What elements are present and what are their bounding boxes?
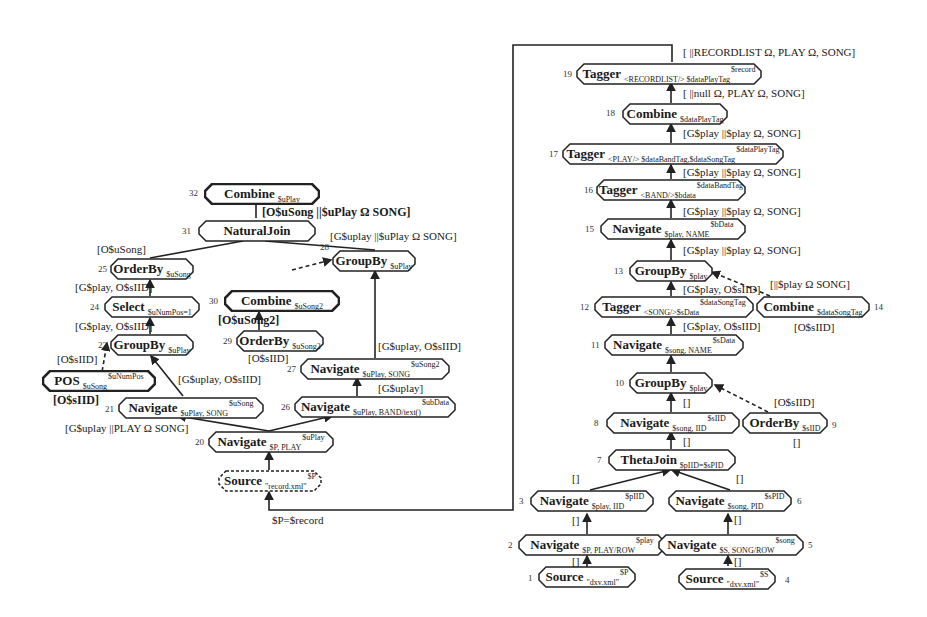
- node-number: 31: [182, 226, 191, 236]
- node-sup: $sPID: [765, 492, 785, 501]
- annotation: []: [683, 396, 690, 408]
- node-32-combine[interactable]: Combine$uPlay: [204, 183, 320, 205]
- annotation: [O$sIID]: [794, 321, 834, 333]
- node-7-thetajoin[interactable]: ThetaJoin$pIID=$sPID: [608, 449, 736, 471]
- annotation: [G$play ||$play Ω, SONG]: [683, 244, 801, 256]
- node-sub: <SONG/>$sData: [644, 308, 699, 317]
- node-6-navigate[interactable]: Navigate$song, PID$sPID: [668, 490, 792, 512]
- node-sup: $uNumPos: [108, 372, 144, 381]
- node-op: Navigate: [620, 415, 669, 430]
- node-op: Navigate: [128, 400, 177, 415]
- node-number: 25: [98, 264, 107, 274]
- node-9-orderby[interactable]: OrderBy$sIID: [742, 412, 828, 434]
- node-op: Navigate: [540, 493, 589, 508]
- node-number: 16: [584, 185, 593, 195]
- node-number: 21: [105, 404, 114, 414]
- node-op: OrderBy: [749, 415, 799, 430]
- node-number: 2: [508, 540, 513, 550]
- node-sub: <RECORDLIST/> $dataPlayTag: [624, 75, 730, 84]
- node-sub: $dataPlayTag: [680, 115, 723, 124]
- node-22-pos[interactable]: POS$uSong$uNumPos: [42, 370, 156, 392]
- node-op: Navigate: [675, 493, 724, 508]
- node-op: NaturalJoin: [223, 223, 290, 238]
- node-sub: <BAND/>$bdata: [641, 191, 696, 200]
- node-15-navigate[interactable]: Navigate$play, NAME$bData: [600, 218, 746, 240]
- node-14-combine[interactable]: Combine$dataSongTag: [756, 296, 870, 318]
- node-18-combine[interactable]: Combine$dataPlayTag: [622, 103, 728, 125]
- node-sub: $uSong: [166, 270, 190, 279]
- node-sub: $song, NAME: [665, 346, 712, 355]
- node-21-navigate[interactable]: Navigate$uPlay, SONG$uSong: [118, 397, 264, 419]
- node-sub: "record.xml": [265, 482, 306, 491]
- node-op: Select: [112, 299, 144, 314]
- node-number: 17: [549, 149, 558, 159]
- annotation: [O$sIID]: [774, 396, 814, 408]
- node-op: Tagger: [602, 299, 641, 314]
- node-number: 3: [519, 496, 524, 506]
- node-17-tagger[interactable]: Tagger<PLAY/> $dataBandTag,$dataSongTag$…: [562, 143, 784, 165]
- node-op: Navigate: [217, 434, 266, 449]
- node-8-navigate[interactable]: Navigate$song, IID$sIID: [606, 412, 740, 434]
- node-sub: <PLAY/> $dataBandTag,$dataSongTag: [608, 155, 735, 164]
- node-number: 4: [785, 575, 790, 585]
- annotation: []: [734, 513, 741, 525]
- node-5-navigate[interactable]: Navigate$S, SONG/ROW$song: [658, 534, 804, 556]
- node-op: Combine: [241, 293, 292, 308]
- node-26-navigate[interactable]: Navigate$uPlay, BAND/text()$ubData: [294, 396, 456, 418]
- node-number: 19: [563, 69, 572, 79]
- node-12-tagger[interactable]: Tagger<SONG/>$sData$dataSongTag: [594, 296, 754, 318]
- node-24-select[interactable]: Select$uNumPos=1: [104, 296, 200, 318]
- annotation: []: [572, 555, 579, 567]
- annotation: [G$uplay ||$uPlay Ω SONG]: [330, 230, 457, 242]
- node-13-groupby[interactable]: GroupBy$play: [629, 260, 713, 282]
- node-31-naturaljoin[interactable]: NaturalJoin: [198, 220, 316, 242]
- node-23-groupby[interactable]: GroupBy$uPlay: [110, 334, 194, 356]
- node-number: 11: [591, 340, 600, 350]
- node-25-orderby[interactable]: OrderBy$uSong: [110, 258, 194, 280]
- node-op: Source: [546, 569, 584, 584]
- annotation: [G$play, O$sIID]: [683, 320, 761, 332]
- annotation: [G$play, O$sIID]: [683, 283, 761, 295]
- node-16-tagger[interactable]: Tagger<BAND/>$bdata$dataBandTag: [596, 179, 746, 201]
- node-op: Tagger: [566, 146, 605, 161]
- node-29-orderby[interactable]: OrderBy$uSong2: [236, 330, 324, 352]
- node-op: GroupBy: [335, 253, 387, 268]
- node-source-record[interactable]: Source"record.xml"$P: [218, 470, 322, 492]
- annotation: [O$sIID]: [53, 393, 99, 408]
- annotation: [G$uplay]: [378, 382, 423, 394]
- node-sub: $uPlay, SONG: [181, 409, 228, 418]
- node-30-combine[interactable]: Combine$uSong2: [224, 290, 340, 312]
- node-sup: $dataBandTag: [697, 181, 743, 190]
- annotation: [O$sIID]: [248, 352, 288, 364]
- node-28-groupby[interactable]: GroupBy$uPlay: [332, 250, 416, 272]
- node-sup: $ubData: [422, 398, 449, 407]
- node-number: 5: [808, 540, 813, 550]
- node-3-navigate[interactable]: Navigate$play, IID$pIID: [530, 490, 654, 512]
- node-number: 14: [874, 302, 883, 312]
- node-10-groupby[interactable]: GroupBy$play: [629, 372, 713, 394]
- annotation: []: [734, 555, 741, 567]
- node-20-navigate[interactable]: Navigate$P, PLAY$uPlay: [208, 431, 334, 453]
- node-19-tagger[interactable]: Tagger<RECORDLIST/> $dataPlayTag$record: [576, 63, 762, 85]
- node-27-navigate[interactable]: Navigate$uPlay, SONG$uSong2: [300, 358, 450, 380]
- node-number: 8: [594, 418, 599, 428]
- node-4-source[interactable]: Source"dxv.xml"$S: [678, 568, 776, 590]
- node-number: 15: [585, 224, 594, 234]
- node-sup: $play: [636, 536, 654, 545]
- node-op: GroupBy: [635, 263, 687, 278]
- node-op: OrderBy: [113, 261, 163, 276]
- node-sub: $song, PID: [728, 502, 764, 511]
- node-2-navigate[interactable]: Navigate$P, PLAY/ROW$play: [518, 534, 666, 556]
- node-sub: $play, IID: [592, 502, 624, 511]
- node-sub: "dxv.xml": [727, 580, 759, 589]
- node-op: OrderBy: [239, 333, 289, 348]
- node-number: 10: [615, 378, 624, 388]
- annotation: [G$uplay ||PLAY Ω SONG]: [65, 422, 188, 434]
- annotation: []: [572, 514, 579, 526]
- node-number: 27: [287, 364, 296, 374]
- node-op: GroupBy: [113, 337, 165, 352]
- node-1-source[interactable]: Source"dxv.xml"$P: [538, 566, 636, 588]
- node-11-navigate[interactable]: Navigate$song, NAME$sData: [604, 334, 744, 356]
- node-sup: $uSong: [229, 399, 253, 408]
- node-sup: $record: [731, 65, 755, 74]
